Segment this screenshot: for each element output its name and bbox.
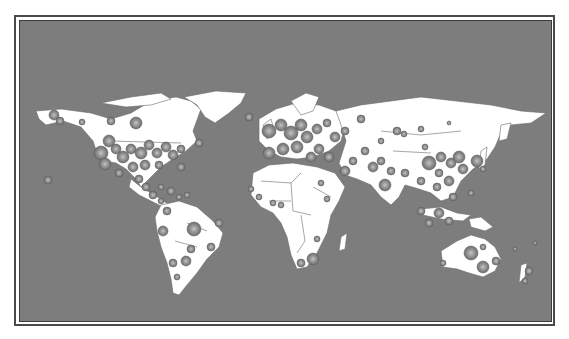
world-map[interactable] — [19, 20, 552, 322]
world-map-svg — [20, 21, 552, 322]
new-guinea — [469, 217, 493, 231]
africa — [251, 163, 345, 269]
kamchatka — [499, 123, 511, 141]
madagascar — [339, 233, 347, 251]
